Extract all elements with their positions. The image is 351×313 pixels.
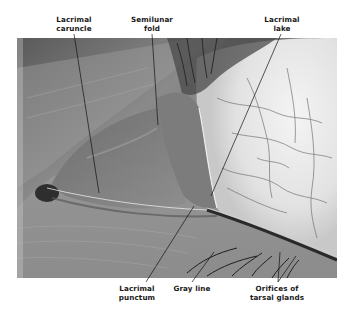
label-line: Lacrimal [119, 284, 155, 293]
eye-photograph [17, 38, 337, 278]
label-line: tarsal glands [250, 293, 304, 302]
label-line: punctum [119, 293, 155, 302]
label-gray-line: Gray line [173, 284, 210, 293]
label-line: Gray line [173, 284, 210, 293]
label-lacrimal-lake: Lacrimal lake [264, 15, 299, 33]
label-lacrimal-punctum: Lacrimal punctum [119, 284, 155, 302]
label-semilunar-fold: Semilunar fold [131, 15, 173, 33]
label-lacrimal-caruncle: Lacrimal caruncle [56, 15, 91, 33]
label-line: Semilunar [131, 15, 173, 24]
label-line: Orifices of [250, 284, 304, 293]
label-line: fold [131, 24, 173, 33]
label-line: Lacrimal [56, 15, 91, 24]
label-line: Lacrimal [264, 15, 299, 24]
label-line: caruncle [56, 24, 91, 33]
label-orifices-tarsal-glands: Orifices of tarsal glands [250, 284, 304, 302]
label-line: lake [264, 24, 299, 33]
